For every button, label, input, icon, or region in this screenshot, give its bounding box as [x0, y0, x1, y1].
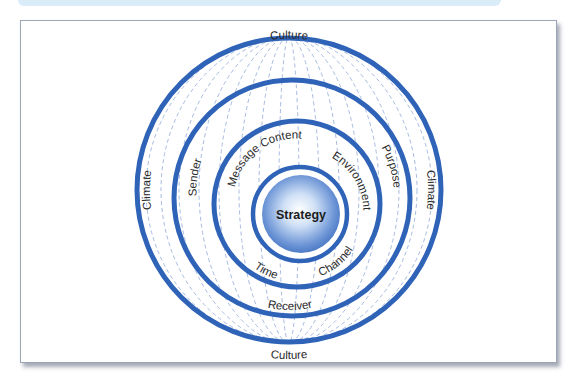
label-climate-left: Climate [140, 169, 153, 210]
label-receiver: Receiver [267, 298, 313, 312]
label-culture-top: Culture [269, 29, 308, 42]
concentric-diagram: Strategy Culture Culture Climate Climate… [0, 0, 577, 381]
core-label: Strategy [276, 208, 326, 222]
label-culture-bottom: Culture [270, 348, 307, 361]
label-climate-right: Climate [425, 169, 438, 210]
label-sender: Sender [186, 157, 203, 197]
